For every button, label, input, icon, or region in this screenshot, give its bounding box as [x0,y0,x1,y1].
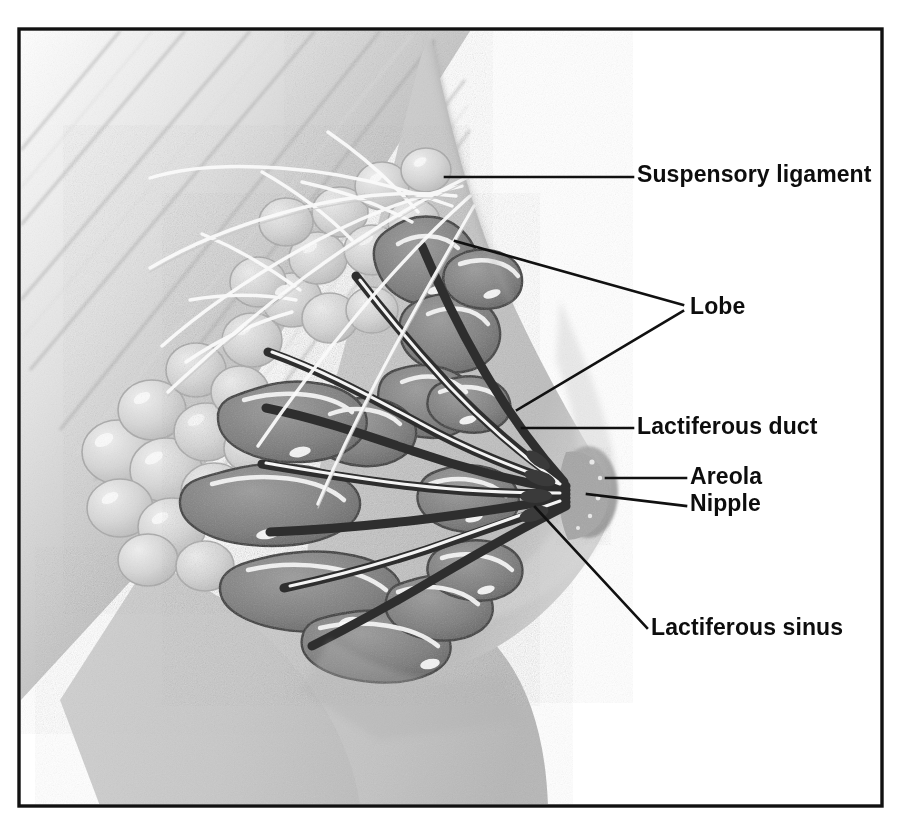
label-suspensory-ligament: Suspensory ligament [637,161,872,187]
anatomy-figure: Suspensory ligamentLobeLactiferous ductA… [0,0,897,827]
label-lobe: Lobe [690,293,745,319]
label-lactiferous-sinus: Lactiferous sinus [651,614,843,640]
label-nipple: Nipple [690,490,761,516]
label-lactiferous-duct: Lactiferous duct [637,413,818,439]
figure-canvas: Suspensory ligamentLobeLactiferous ductA… [0,0,897,827]
label-areola: Areola [690,463,762,489]
